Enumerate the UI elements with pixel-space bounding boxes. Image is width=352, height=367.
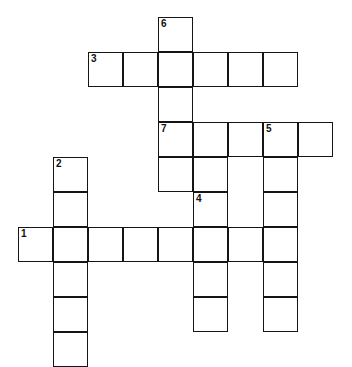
crossword-cell[interactable]	[123, 52, 158, 87]
clue-number-5: 5	[266, 124, 272, 134]
crossword-cell[interactable]	[263, 157, 298, 192]
clue-number-3: 3	[91, 54, 97, 64]
crossword-cell[interactable]	[193, 52, 228, 87]
crossword-cell[interactable]	[193, 262, 228, 297]
clue-number-6: 6	[161, 19, 167, 29]
crossword-cell[interactable]	[228, 227, 263, 262]
crossword-cell[interactable]	[228, 52, 263, 87]
clue-number-1: 1	[21, 229, 27, 239]
crossword-cell[interactable]	[53, 262, 88, 297]
crossword-cell[interactable]	[263, 227, 298, 262]
crossword-cell[interactable]	[123, 227, 158, 262]
crossword-cell[interactable]	[53, 227, 88, 262]
crossword-cell[interactable]	[263, 297, 298, 332]
crossword-cell[interactable]	[158, 52, 193, 87]
clue-number-7: 7	[161, 124, 167, 134]
crossword-cell[interactable]	[158, 227, 193, 262]
crossword-cell[interactable]	[263, 262, 298, 297]
crossword-cell[interactable]	[298, 122, 333, 157]
crossword-cell[interactable]	[158, 157, 193, 192]
crossword-cell[interactable]	[263, 192, 298, 227]
crossword-cell[interactable]	[53, 332, 88, 367]
crossword-cell[interactable]	[158, 87, 193, 122]
clue-number-2: 2	[56, 159, 62, 169]
crossword-cell[interactable]	[193, 297, 228, 332]
crossword-cell[interactable]	[228, 122, 263, 157]
crossword-cell[interactable]	[53, 297, 88, 332]
crossword-cell[interactable]	[193, 227, 228, 262]
clue-number-4: 4	[196, 194, 202, 204]
crossword-cell[interactable]	[88, 227, 123, 262]
crossword-cell[interactable]	[53, 192, 88, 227]
crossword-cell[interactable]	[193, 122, 228, 157]
crossword-cell[interactable]	[263, 52, 298, 87]
crossword-cell[interactable]	[193, 157, 228, 192]
